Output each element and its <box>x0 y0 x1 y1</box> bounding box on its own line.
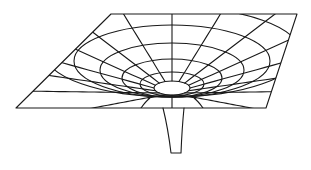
gravity-well-diagram <box>0 0 311 170</box>
spacetime-sheet-outline <box>16 14 297 108</box>
throat-tube <box>163 108 184 153</box>
grid-spoke <box>185 91 311 93</box>
grid-spoke <box>0 64 155 90</box>
gravity-well-drawing <box>0 0 311 170</box>
grid-spoke <box>190 33 311 88</box>
well-throat <box>163 108 184 153</box>
curved-grid <box>0 0 311 115</box>
